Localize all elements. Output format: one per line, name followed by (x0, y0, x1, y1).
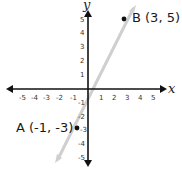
x-tick: 2 (112, 94, 116, 102)
y-tick: -2 (78, 113, 85, 121)
x-tick: 5 (151, 94, 155, 102)
x-tick: -2 (56, 94, 63, 102)
y-tick: 4 (80, 29, 85, 37)
x-axis-label: x (168, 81, 176, 96)
y-tick: 3 (80, 43, 84, 51)
x-tick: 1 (99, 94, 103, 102)
point-b-label: B (3, 5) (132, 10, 180, 25)
y-tick: -3 (80, 126, 87, 134)
y-tick: 5 (80, 16, 84, 24)
y-tick: 1 (80, 71, 84, 79)
x-tick: -4 (31, 94, 39, 102)
coordinate-plane: x y -5 -4 -3 -2 -1 1 2 3 4 5 5 4 3 2 1 -… (0, 0, 182, 171)
x-tick: 3 (125, 94, 129, 102)
x-tick: -3 (43, 94, 50, 102)
point-a-marker (75, 126, 80, 131)
x-tick: -1 (70, 94, 77, 102)
y-axis-label: y (82, 0, 91, 12)
x-tick: -5 (19, 94, 26, 102)
x-tick: 4 (138, 94, 143, 102)
y-tick: -5 (78, 154, 85, 162)
point-b-marker (122, 17, 127, 22)
y-tick: -4 (78, 140, 86, 148)
y-tick: -1 (78, 99, 85, 107)
point-a-label: A (-1, -3) (16, 120, 73, 135)
y-tick: 2 (80, 57, 84, 65)
point-a: A (-1, -3) (16, 120, 79, 135)
background (0, 0, 182, 171)
